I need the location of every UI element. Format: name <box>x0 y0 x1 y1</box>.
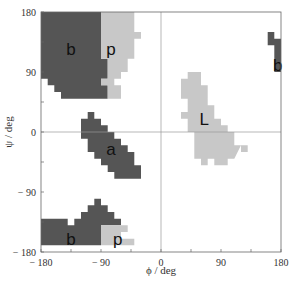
region-label-a: a <box>106 140 116 159</box>
region-label-p: p <box>106 40 115 59</box>
region-label-L: L <box>200 110 209 129</box>
ramachandran-plot: bpaLbbp − 180− 90090180− 180− 90090180 ϕ… <box>0 0 298 289</box>
region-label-b: b <box>66 230 75 249</box>
x-tick-label: 180 <box>274 257 289 268</box>
x-tick-label: − 90 <box>92 257 110 268</box>
y-tick-label: 0 <box>31 127 36 138</box>
region-label-p: p <box>113 230 122 249</box>
region-label-b: b <box>66 40 75 59</box>
x-tick-label: 90 <box>216 257 226 268</box>
y-tick-label: − 90 <box>18 187 36 198</box>
y-tick-label: 180 <box>21 7 36 18</box>
region-L-light <box>181 72 248 165</box>
y-tick-label: 90 <box>26 67 36 78</box>
y-axis-label: ψ / deg <box>2 116 14 148</box>
x-axis-label: ϕ / deg <box>146 264 177 276</box>
y-tick-label: − 180 <box>13 247 36 258</box>
x-tick-label: − 180 <box>29 257 52 268</box>
